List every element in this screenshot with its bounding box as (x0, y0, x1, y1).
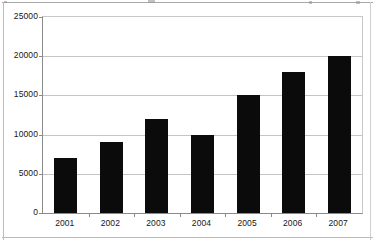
x-axis-tick-label: 2003 (146, 218, 165, 228)
y-axis-tick-label: 15000 (14, 89, 38, 99)
x-axis-tick (271, 213, 272, 217)
x-axis-tick-label: 2006 (283, 218, 302, 228)
bar (54, 158, 77, 213)
y-axis-tick-label: 5000 (19, 168, 38, 178)
bar (191, 135, 214, 213)
x-axis-tick (316, 213, 317, 217)
x-axis-tick-label: 2001 (55, 218, 74, 228)
y-axis-tick (39, 56, 43, 57)
bar-chart: 0500010000150002000025000 20012002200320… (0, 0, 375, 242)
x-axis-tick (134, 213, 135, 217)
plot-area (42, 16, 363, 214)
y-axis-tick (39, 135, 43, 136)
x-axis-tick (225, 213, 226, 217)
y-axis-tick (39, 17, 43, 18)
x-axis-tick-label: 2002 (101, 218, 120, 228)
y-axis-tick (39, 174, 43, 175)
bar (237, 95, 260, 213)
x-axis-tick (89, 213, 90, 217)
x-axis-tick-label: 2007 (329, 218, 348, 228)
x-axis-tick (180, 213, 181, 217)
y-axis-tick (39, 213, 43, 214)
y-axis-tick (39, 95, 43, 96)
bar (282, 72, 305, 213)
bar (100, 142, 123, 213)
y-axis-tick-label: 20000 (14, 50, 38, 60)
x-axis-labels: 2001200220032004200520062007 (42, 218, 363, 236)
x-axis-tick-label: 2004 (192, 218, 211, 228)
bar (145, 119, 168, 213)
bar (328, 56, 351, 213)
gridline (43, 95, 362, 96)
y-axis-tick-label: 25000 (14, 11, 38, 21)
gridline (43, 56, 362, 57)
y-axis-labels: 0500010000150002000025000 (0, 16, 38, 214)
x-axis-tick-label: 2005 (237, 218, 256, 228)
y-axis-tick-label: 10000 (14, 129, 38, 139)
y-axis-tick-label: 0 (33, 207, 38, 217)
